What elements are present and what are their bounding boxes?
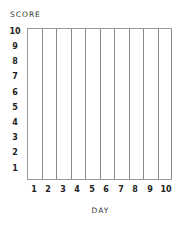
y-tick: 4 (8, 118, 22, 127)
y-tick: 8 (8, 57, 22, 66)
x-tick: 3 (56, 185, 70, 194)
y-tick: 9 (8, 42, 22, 51)
grid-column (28, 29, 172, 179)
x-tick: 6 (99, 185, 113, 194)
y-tick: 7 (8, 72, 22, 81)
y-tick: 2 (8, 148, 22, 157)
x-axis-label: DAY (0, 206, 179, 215)
y-tick: 6 (8, 88, 22, 97)
y-tick: 5 (8, 103, 22, 112)
y-tick: 1 (8, 164, 22, 173)
x-tick: 2 (41, 185, 55, 194)
plot-grid (27, 28, 172, 180)
x-tick: 9 (143, 185, 157, 194)
x-tick: 4 (70, 185, 84, 194)
x-tick: 10 (158, 185, 174, 194)
y-tick: 3 (8, 133, 22, 142)
x-tick: 5 (85, 185, 99, 194)
y-axis-label: SCORE (10, 10, 41, 19)
y-tick: 10 (8, 27, 22, 36)
x-tick: 8 (128, 185, 142, 194)
x-tick: 7 (114, 185, 128, 194)
x-tick: 1 (27, 185, 41, 194)
